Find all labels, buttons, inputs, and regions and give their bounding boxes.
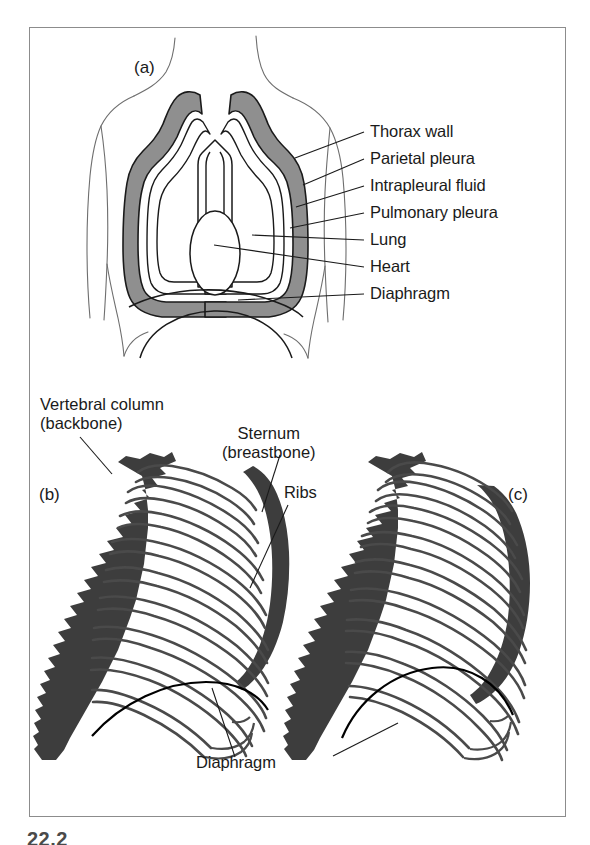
label-vertebral-column-line2: (backbone) <box>40 414 164 433</box>
label-parietal-pleura: Parietal pleura <box>370 149 475 168</box>
label-heart: Heart <box>370 257 410 276</box>
label-vertebral-column: Vertebral column (backbone) <box>40 395 164 433</box>
figure-page: (a) (b) (c) Thorax wall Parietal pleura … <box>0 0 590 845</box>
label-sternum-line1: Sternum <box>222 424 316 443</box>
label-diaphragm: Diaphragm <box>370 284 450 303</box>
label-intrapleural-fluid: Intrapleural fluid <box>370 176 486 195</box>
figure-caption: 22.2 <box>27 828 68 845</box>
label-vertebral-column-line1: Vertebral column <box>40 395 164 414</box>
label-diaphragm-lower: Diaphragm <box>196 753 276 772</box>
label-sternum: Sternum (breastbone) <box>222 424 316 462</box>
label-sternum-line2: (breastbone) <box>222 443 316 462</box>
panel-tag-c: (c) <box>508 485 528 505</box>
label-thorax-wall: Thorax wall <box>370 122 453 141</box>
panel-tag-a: (a) <box>134 58 155 78</box>
label-ribs: Ribs <box>284 483 317 502</box>
label-pulmonary-pleura: Pulmonary pleura <box>370 203 498 222</box>
panel-tag-b: (b) <box>39 485 60 505</box>
label-lung: Lung <box>370 230 406 249</box>
